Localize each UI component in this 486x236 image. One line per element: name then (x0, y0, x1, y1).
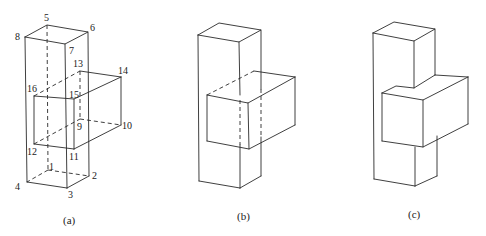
column-bottom-right (415, 176, 437, 186)
box-top-front (207, 77, 295, 103)
column-top-face (373, 22, 435, 41)
column-edge-7-3 (65, 44, 67, 188)
vertex-label-16: 16 (27, 83, 37, 94)
figure-b: (b) (198, 23, 295, 223)
vertex-label-6: 6 (90, 22, 95, 33)
vertex-label-15: 15 (69, 89, 79, 100)
box-top-right-back (435, 75, 468, 77)
vertex-label-3: 3 (68, 189, 73, 200)
box-hidden-12-9 (34, 119, 80, 144)
vertex-label-7: 7 (69, 45, 74, 56)
caption-b: (b) (237, 210, 250, 223)
figure-c: (c) (373, 22, 468, 221)
column-top-face (25, 25, 88, 44)
column-edge-6-2 (88, 32, 89, 176)
vertex-label-2: 2 (92, 170, 97, 181)
column-bottom-front (199, 181, 240, 188)
box-top-front (382, 77, 468, 100)
caption-c: (c) (408, 208, 421, 221)
column-edge-4-3 (27, 182, 67, 188)
box-bottom (207, 125, 295, 149)
box-front-edge (248, 103, 249, 149)
column-bottom-front (374, 179, 415, 186)
column-top-face (198, 23, 261, 42)
box-top-left-back (382, 75, 435, 93)
column-edge-8-4 (25, 37, 27, 182)
vertex-label-9: 9 (77, 121, 82, 132)
column-hidden-1-2 (48, 170, 89, 176)
box-hidden-9-10 (80, 119, 121, 125)
box-edge-13-14 (80, 71, 121, 77)
vertex-label-8: 8 (15, 31, 20, 42)
vertex-label-1: 1 (49, 161, 54, 172)
figure-a: 5 6 8 7 13 14 16 15 9 10 12 11 1 2 4 3 (… (15, 12, 132, 227)
column-hidden-5-1 (47, 25, 48, 170)
column-left-edge (198, 35, 199, 181)
box-bottom (382, 124, 468, 147)
vertex-label-11: 11 (69, 151, 79, 162)
vertex-label-12: 12 (27, 146, 37, 157)
vertex-label-4: 4 (15, 181, 20, 192)
column-bottom-right (240, 176, 261, 188)
box-hidden-top-left (207, 71, 254, 95)
column-edge-3-2 (67, 176, 89, 188)
box-top-back (254, 71, 295, 77)
vertex-label-13: 13 (73, 58, 83, 69)
column-left-edge (373, 33, 374, 179)
vertex-label-14: 14 (118, 65, 128, 76)
vertex-label-5: 5 (44, 12, 49, 23)
column-hidden-1-4 (27, 170, 48, 182)
box-edge-12-11 (34, 144, 74, 149)
diagram-canvas: 5 6 8 7 13 14 16 15 9 10 12 11 1 2 4 3 (… (0, 0, 486, 236)
column-front-edge-upper (239, 42, 240, 95)
caption-a: (a) (63, 214, 76, 227)
vertex-label-10: 10 (122, 120, 132, 131)
